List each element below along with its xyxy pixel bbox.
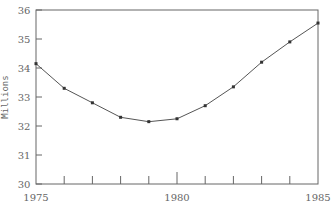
y-axis-title: Millions — [0, 75, 10, 118]
data-point — [232, 85, 235, 88]
data-point — [288, 40, 291, 43]
data-point — [204, 104, 207, 107]
x-tick-label: 1985 — [305, 192, 330, 203]
data-point — [147, 120, 150, 123]
plot-frame — [36, 10, 318, 184]
data-point — [176, 117, 179, 120]
data-point — [35, 62, 38, 65]
y-tick-label: 32 — [18, 121, 31, 132]
y-axis-ticks — [36, 10, 42, 184]
x-axis-ticks — [64, 172, 290, 184]
y-tick-label: 36 — [18, 5, 31, 16]
y-tick-label: 33 — [18, 92, 31, 103]
line-chart: 30313233343536 197519801985 Millions — [0, 0, 331, 205]
data-line — [36, 23, 318, 122]
y-tick-label: 34 — [18, 63, 31, 74]
data-point — [119, 116, 122, 119]
y-tick-label: 35 — [18, 34, 31, 45]
data-point — [317, 22, 320, 25]
x-tick-label: 1975 — [23, 192, 48, 203]
x-axis-tick-labels: 197519801985 — [23, 192, 330, 203]
y-axis-tick-labels: 30313233343536 — [18, 5, 31, 190]
data-point — [260, 61, 263, 64]
y-tick-label: 31 — [18, 150, 31, 161]
y-tick-label: 30 — [18, 179, 31, 190]
data-point — [91, 101, 94, 104]
data-point — [63, 87, 66, 90]
x-tick-label: 1980 — [164, 192, 189, 203]
data-markers — [35, 22, 320, 124]
